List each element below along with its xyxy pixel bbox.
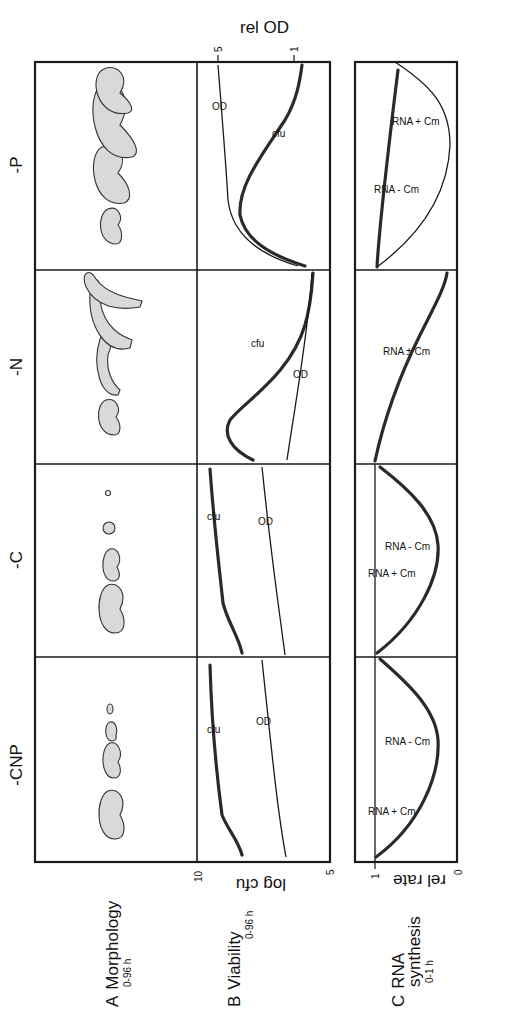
column-label-cnp: -CNP	[7, 744, 26, 786]
starvation-figure: -CNP -C -N -P AMorphology 0-96 h BViabil…	[0, 0, 509, 1015]
viability-c: cfu OD	[207, 467, 285, 655]
rel-od-top-tick: 5	[213, 46, 224, 52]
rna-pm-cm-label: RNA ± Cm	[383, 346, 430, 357]
row-label-a: AMorphology 0-96 h	[103, 900, 133, 1007]
figure-stage: -CNP -C -N -P AMorphology 0-96 h BViabil…	[0, 0, 509, 1015]
column-label-p: -P	[7, 157, 26, 174]
cell-shape	[99, 790, 124, 839]
rel-od-bottom-tick: 1	[289, 46, 300, 52]
rna-minus-cm-label: RNA - Cm	[385, 736, 430, 747]
rna-plus-cm-label: RNA + Cm	[368, 568, 416, 579]
rel-rate-axis-label: rel rate	[393, 871, 446, 890]
log-cfu-bottom-tick: 5	[325, 869, 336, 875]
od-curve	[218, 65, 298, 266]
cell-shape	[98, 400, 120, 435]
row-label-c: CRNA synthesis 0-1 h	[389, 916, 435, 1007]
row-c-title2: synthesis	[405, 916, 424, 987]
cfu-label: cfu	[207, 511, 220, 522]
viability-p: OD cfu	[212, 65, 305, 266]
rna-cnp: RNA + Cm RNA - Cm	[368, 657, 438, 862]
cfu-label: cfu	[272, 128, 285, 139]
morphology-p	[93, 68, 137, 244]
cell-shape	[106, 722, 117, 741]
rna-pm-cm-curve	[375, 273, 447, 461]
viability-cnp: cfu OD	[207, 660, 286, 857]
cell-shape	[103, 743, 121, 778]
rna-n: RNA ± Cm	[375, 273, 447, 461]
rel-rate-top-tick: 1	[370, 873, 381, 879]
od-curve	[262, 660, 286, 857]
rna-minus-cm-curve	[376, 659, 438, 857]
row-c-subtitle: 0-1 h	[424, 960, 435, 983]
row-b-subtitle: 0-96 h	[244, 911, 255, 939]
od-label: OD	[258, 516, 273, 527]
cell-shape	[103, 549, 120, 581]
morphology-n	[84, 273, 142, 435]
rna-plus-cm-label: RNA + Cm	[392, 116, 440, 127]
rna-minus-cm-label: RNA - Cm	[385, 541, 430, 552]
cell-shape	[107, 704, 113, 714]
rna-minus-cm-label: RNA - Cm	[374, 184, 419, 195]
cell-shape	[99, 584, 124, 633]
rna-minus-cm-curve	[377, 70, 398, 267]
cfu-curve	[210, 469, 242, 653]
cfu-curve	[210, 665, 242, 855]
row-a-subtitle: 0-96 h	[122, 959, 133, 987]
panel-ab-frame	[35, 62, 330, 862]
row-a-title: AMorphology	[103, 900, 122, 1007]
rna-p: RNA - Cm RNA + Cm	[374, 62, 450, 267]
morphology-c	[99, 491, 124, 634]
od-label: OD	[256, 716, 271, 727]
cfu-label: cfu	[251, 338, 264, 349]
rna-plus-cm-label: RNA + Cm	[368, 806, 416, 817]
log-cfu-top-tick: 10	[193, 870, 204, 882]
viability-n: cfu OD	[227, 273, 313, 460]
column-label-c: -C	[7, 551, 26, 569]
cfu-curve	[240, 65, 305, 266]
cfu-label: cfu	[207, 724, 220, 735]
cfu-curve	[227, 273, 313, 460]
row-label-b: BViability 0-96 h	[225, 911, 255, 1007]
row-b-title: BViability	[225, 931, 244, 1007]
rna-minus-cm-curve	[377, 467, 438, 653]
cell-shape	[100, 208, 121, 244]
od-curve	[287, 273, 312, 460]
od-curve	[262, 467, 285, 655]
cell-shape	[103, 522, 115, 534]
morphology-cnp	[99, 704, 124, 839]
column-label-n: -N	[7, 358, 26, 376]
rel-od-axis-label: rel OD	[240, 18, 289, 37]
log-cfu-axis-label: log cfu	[236, 875, 286, 894]
od-label: OD	[212, 101, 227, 112]
od-label: OD	[293, 369, 308, 380]
rna-c: RNA + Cm RNA - Cm	[368, 464, 438, 657]
rel-rate-bottom-tick: 0	[453, 869, 464, 875]
cell-shape	[106, 491, 111, 496]
